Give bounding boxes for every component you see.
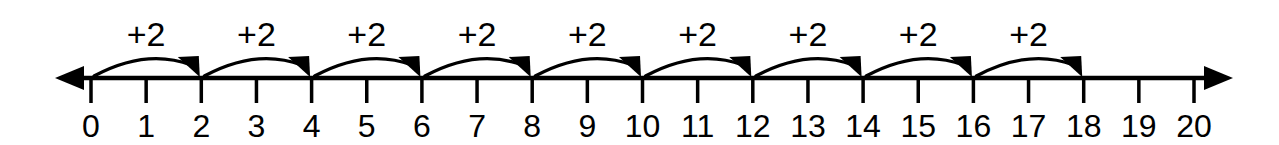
- hop-arc: [646, 59, 743, 76]
- tick-label-15: 15: [900, 108, 936, 144]
- tick-label-6: 6: [413, 108, 431, 144]
- hop-arc: [425, 59, 522, 76]
- hop-arrowhead-icon: [509, 56, 531, 77]
- tick-label-17: 17: [1011, 108, 1047, 144]
- tick-label-11: 11: [681, 108, 714, 144]
- hop-label: +2: [568, 15, 607, 53]
- hop-arrowhead-icon: [729, 56, 751, 77]
- hop-arrow-14-to-16: +2: [866, 15, 972, 77]
- hop-arrowhead-icon: [840, 56, 862, 77]
- tick-label-2: 2: [192, 108, 210, 144]
- hop-arrowhead-icon: [1060, 56, 1082, 77]
- hop-arc: [315, 59, 412, 76]
- hop-arc: [94, 59, 191, 76]
- tick-label-9: 9: [578, 108, 596, 144]
- tick-label-5: 5: [358, 108, 376, 144]
- skip-count-hops: +2+2+2+2+2+2+2+2+2: [94, 15, 1082, 77]
- hop-label: +2: [458, 15, 497, 53]
- tick-labels: 01234567891011121314151617181920: [82, 108, 1212, 144]
- hop-arc: [204, 59, 301, 76]
- hop-label: +2: [1009, 15, 1048, 53]
- hop-label: +2: [899, 15, 938, 53]
- tick-label-16: 16: [956, 108, 992, 144]
- hop-arrow-4-to-6: +2: [315, 15, 421, 77]
- hop-label: +2: [347, 15, 386, 53]
- tick-label-19: 19: [1121, 108, 1157, 144]
- hop-arrow-8-to-10: +2: [535, 15, 641, 77]
- hop-arrow-6-to-8: +2: [425, 15, 531, 77]
- hop-arc: [866, 59, 963, 76]
- hop-label: +2: [127, 15, 166, 53]
- hop-arrowhead-icon: [619, 56, 641, 77]
- tick-marks: [91, 78, 1194, 103]
- hop-arrow-12-to-14: +2: [756, 15, 862, 77]
- hop-arc: [976, 59, 1073, 76]
- tick-label-13: 13: [790, 108, 826, 144]
- hop-arrow-10-to-12: +2: [646, 15, 752, 77]
- hop-arrowhead-icon: [178, 56, 200, 77]
- hop-arrow-16-to-18: +2: [976, 15, 1082, 77]
- tick-label-3: 3: [248, 108, 266, 144]
- axis-left-arrowhead-icon: [55, 66, 84, 90]
- tick-label-18: 18: [1066, 108, 1102, 144]
- tick-label-8: 8: [523, 108, 541, 144]
- hop-label: +2: [237, 15, 276, 53]
- hop-arrowhead-icon: [288, 56, 310, 77]
- tick-label-10: 10: [625, 108, 661, 144]
- hop-arrow-2-to-4: +2: [204, 15, 310, 77]
- number-line-canvas: 01234567891011121314151617181920 +2+2+2+…: [0, 0, 1279, 145]
- hop-arc: [756, 59, 853, 76]
- hop-arrowhead-icon: [950, 56, 972, 77]
- tick-label-14: 14: [845, 108, 881, 144]
- tick-label-20: 20: [1176, 108, 1212, 144]
- hop-arc: [535, 59, 632, 76]
- tick-label-7: 7: [468, 108, 486, 144]
- axis-right-arrowhead-icon: [1204, 66, 1233, 90]
- tick-label-0: 0: [82, 108, 100, 144]
- hop-label: +2: [789, 15, 828, 53]
- tick-label-4: 4: [303, 108, 321, 144]
- hop-label: +2: [678, 15, 717, 53]
- hop-arrowhead-icon: [398, 56, 420, 77]
- hop-arrow-0-to-2: +2: [94, 15, 200, 77]
- tick-label-12: 12: [735, 108, 771, 144]
- tick-label-1: 1: [137, 108, 155, 144]
- number-line-figure: 01234567891011121314151617181920 +2+2+2+…: [0, 0, 1279, 145]
